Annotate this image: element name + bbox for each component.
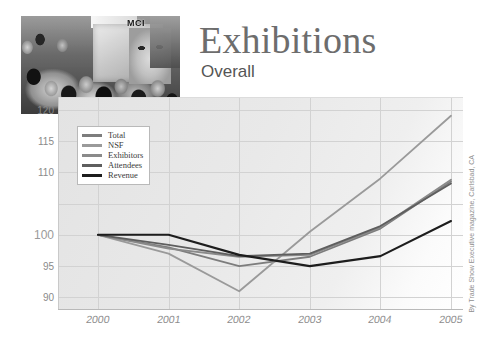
y-tick-label-120: 120 <box>37 104 54 115</box>
y-tick-label-110: 110 <box>38 167 54 178</box>
legend-swatch-attendees <box>82 164 102 167</box>
legend-item-attendees: Attendees <box>82 161 143 170</box>
x-axis: 200020012002200320042005 <box>58 313 463 331</box>
x-tick-label-2002: 2002 <box>227 313 252 325</box>
legend-item-revenue: Revenue <box>82 171 143 180</box>
y-axis: 1201151101009590 <box>24 97 54 310</box>
legend-label-exhibitors: Exhibitors <box>108 151 143 160</box>
legend-swatch-nsf <box>82 144 102 147</box>
legend-swatch-exhibitors <box>82 154 102 157</box>
y-tick-label-95: 95 <box>43 261 54 272</box>
legend-item-total: Total <box>82 131 143 140</box>
x-tick-label-2000: 2000 <box>85 313 110 325</box>
legend-item-exhibitors: Exhibitors <box>82 151 143 160</box>
legend-item-nsf: NSF <box>82 141 143 150</box>
x-tick-label-2001: 2001 <box>156 313 181 325</box>
page-subtitle: Overall <box>201 62 255 81</box>
legend-label-attendees: Attendees <box>108 161 142 170</box>
legend-swatch-revenue <box>82 174 102 177</box>
series-line-exhibitors <box>98 180 451 257</box>
series-line-nsf <box>98 116 451 291</box>
page-title: Exhibitions <box>199 20 376 60</box>
legend-label-total: Total <box>108 131 125 140</box>
photo-mci-sign: MCI <box>127 18 145 28</box>
y-tick-label-90: 90 <box>43 292 54 303</box>
legend-label-nsf: NSF <box>108 141 124 150</box>
page-root: MCI Exhibitions Overall 1201151101009590… <box>0 0 497 345</box>
x-tick-label-2005: 2005 <box>438 313 463 325</box>
series-line-total <box>98 182 451 267</box>
y-tick-label-100: 100 <box>34 228 54 242</box>
chart-legend: TotalNSFExhibitorsAttendeesRevenue <box>77 126 150 185</box>
y-tick-label-115: 115 <box>38 135 54 146</box>
legend-swatch-total <box>82 134 102 137</box>
x-tick-label-2004: 2004 <box>368 313 393 325</box>
x-tick-label-2003: 2003 <box>297 313 322 325</box>
legend-label-revenue: Revenue <box>108 171 138 180</box>
source-credit: By Trade Show Executive magazine, Carlsb… <box>468 155 475 313</box>
